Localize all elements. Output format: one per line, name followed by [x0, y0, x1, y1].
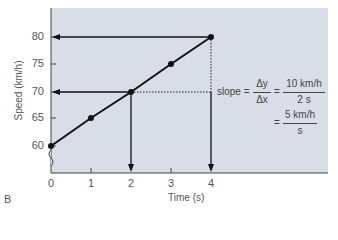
axis-break-icon	[49, 150, 53, 166]
data-point	[48, 143, 54, 149]
x-tick-label: 3	[165, 177, 177, 189]
arrow-left-icon	[52, 34, 60, 40]
equals-sign: =	[274, 86, 280, 97]
data-point	[88, 115, 94, 121]
y-tick-label: 60	[20, 139, 44, 151]
fraction-bar	[283, 92, 325, 93]
x-tick-label: 1	[85, 177, 97, 189]
y-tick-label: 80	[20, 30, 44, 42]
panel-label: B	[4, 193, 11, 205]
y-tick-label: 65	[20, 111, 44, 123]
denominator-2s: 2 s	[283, 94, 325, 105]
x-tick-label: 0	[45, 177, 57, 189]
fraction-bar	[253, 92, 271, 93]
arrow-left-icon	[52, 89, 60, 95]
slope-label: slope =	[217, 86, 250, 97]
delta-y: Δy	[253, 78, 271, 89]
equals-sign: =	[274, 117, 280, 128]
delta-x: Δx	[253, 94, 271, 105]
denominator-s: s	[283, 125, 317, 136]
y-tick-label: 70	[20, 85, 44, 97]
arrow-down-icon	[128, 164, 134, 172]
numerator-5kmh: 5 km/h	[283, 109, 317, 120]
x-tick-label: 4	[205, 177, 217, 189]
numerator-10kmh: 10 km/h	[283, 78, 325, 89]
data-point	[208, 34, 214, 40]
y-axis-label: Speed (km/h)	[13, 51, 24, 131]
x-tick-label: 2	[125, 177, 137, 189]
data-point	[128, 89, 134, 95]
x-axis-label: Time (s)	[168, 192, 204, 203]
fraction-bar	[283, 123, 317, 124]
arrow-down-icon	[208, 164, 214, 172]
data-point	[168, 61, 174, 67]
y-tick-label: 75	[20, 57, 44, 69]
